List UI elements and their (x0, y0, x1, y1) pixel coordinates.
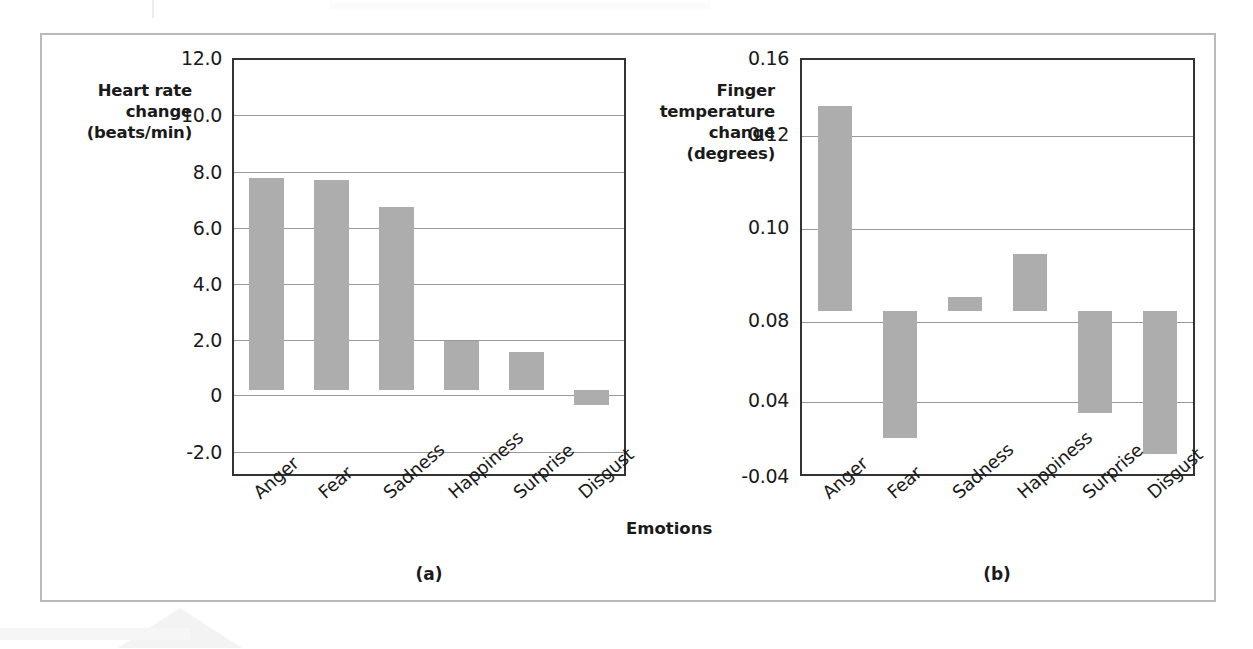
y-tick-label: 4.0 (130, 273, 222, 295)
bar-anger (249, 178, 285, 390)
y-tick-label: -2.0 (130, 441, 222, 463)
bar-happiness (444, 341, 480, 391)
y-axis-title-line: Heart rate (20, 80, 192, 101)
y-tick-label: 0 (130, 384, 222, 406)
bar-surprise (1078, 311, 1112, 413)
y-tick-label: 0.12 (697, 123, 789, 145)
plot-area-b (800, 58, 1195, 476)
y-tick-label: 0.10 (697, 216, 789, 238)
y-tick-label: 8.0 (130, 161, 222, 183)
y-axis-title-line: (degrees) (600, 143, 775, 164)
chart-panel-a: Heart rate change (beats/min) 12.0 10.0 … (0, 0, 640, 649)
bar-surprise (509, 352, 545, 391)
y-tick-label: 0.16 (697, 47, 789, 69)
bar-series-a (234, 60, 624, 474)
y-axis-title-line: temperature (600, 101, 775, 122)
panel-caption-b: (b) (937, 564, 1057, 584)
panel-caption-a: (a) (369, 564, 489, 584)
y-tick-label: 0.08 (697, 309, 789, 331)
scan-artifact-smudge (0, 628, 190, 640)
bar-sadness (379, 207, 415, 390)
y-tick-label: 6.0 (130, 217, 222, 239)
bar-fear (314, 180, 350, 390)
y-tick-label: 10.0 (130, 104, 222, 126)
x-axis-title: Emotions (626, 519, 712, 538)
bar-anger (818, 106, 852, 311)
y-axis-title-line: Finger (600, 80, 775, 101)
bar-series-b (802, 60, 1193, 474)
bar-disgust (1143, 311, 1177, 454)
bar-happiness (1013, 254, 1047, 311)
y-axis-title-finger-temperature: Finger temperature change (degrees) (600, 80, 775, 164)
y-tick-label: -0.04 (697, 465, 789, 487)
y-tick-label: 0.04 (697, 389, 789, 411)
y-tick-label: 12.0 (130, 47, 222, 69)
bar-disgust (574, 390, 610, 405)
bar-fear (883, 311, 917, 438)
y-tick-label: 2.0 (130, 329, 222, 351)
plot-area-a (232, 58, 626, 476)
bar-sadness (948, 297, 982, 311)
